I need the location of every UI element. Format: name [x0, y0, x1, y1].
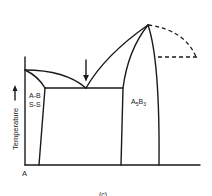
region-label-ab: A-B — [29, 92, 41, 99]
liquidus-left — [25, 70, 86, 88]
dashed-liquidus-extension — [148, 25, 196, 57]
region-label-compound: A5B3 — [131, 98, 146, 107]
caption: (c) — [99, 191, 107, 196]
origin-label-a: A — [22, 169, 27, 178]
compound-left-boundary — [121, 25, 148, 165]
compound-right-boundary — [148, 25, 159, 165]
y-arrow-head-icon — [13, 85, 18, 91]
arrow-head-icon — [83, 75, 89, 81]
y-axis-label: Temperature — [11, 108, 20, 150]
liquidus-right — [86, 25, 148, 88]
phase-diagram: A-B S-S A5B3 Temperature A (c) — [0, 0, 212, 196]
solidus-left — [25, 70, 45, 88]
solvus-left — [39, 88, 45, 165]
region-label-ss: S-S — [29, 101, 41, 108]
